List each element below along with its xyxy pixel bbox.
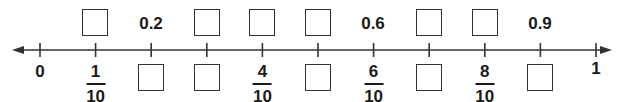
answer-box-bottom-2[interactable] — [138, 64, 164, 91]
fraction-8-10: 810 — [475, 63, 494, 102]
answer-box-top-1[interactable] — [82, 9, 108, 36]
answer-box-top-7[interactable] — [416, 9, 442, 36]
label-0-6: 0.6 — [361, 15, 385, 32]
answer-box-top-3[interactable] — [194, 9, 220, 36]
fraction-4-10: 410 — [253, 63, 272, 102]
label-zero: 0 — [35, 63, 44, 80]
answer-box-bottom-9[interactable] — [527, 64, 553, 91]
answer-box-bottom-5[interactable] — [305, 64, 331, 91]
fraction-1-10: 110 — [86, 63, 105, 102]
answer-box-top-8[interactable] — [472, 9, 498, 36]
answer-box-top-5[interactable] — [305, 9, 331, 36]
label-0-2: 0.2 — [139, 15, 163, 32]
number-line-diagram: 0.2 0.6 0.9 0 110 410 610 810 1 — [0, 0, 636, 102]
answer-box-bottom-7[interactable] — [416, 64, 442, 91]
fraction-6-10: 610 — [364, 63, 383, 102]
right-arrow-icon — [600, 46, 612, 54]
label-one: 1 — [591, 60, 600, 77]
answer-box-top-4[interactable] — [249, 9, 275, 36]
left-arrow-icon — [12, 46, 24, 54]
answer-box-bottom-3[interactable] — [194, 64, 220, 91]
label-0-9: 0.9 — [528, 15, 552, 32]
